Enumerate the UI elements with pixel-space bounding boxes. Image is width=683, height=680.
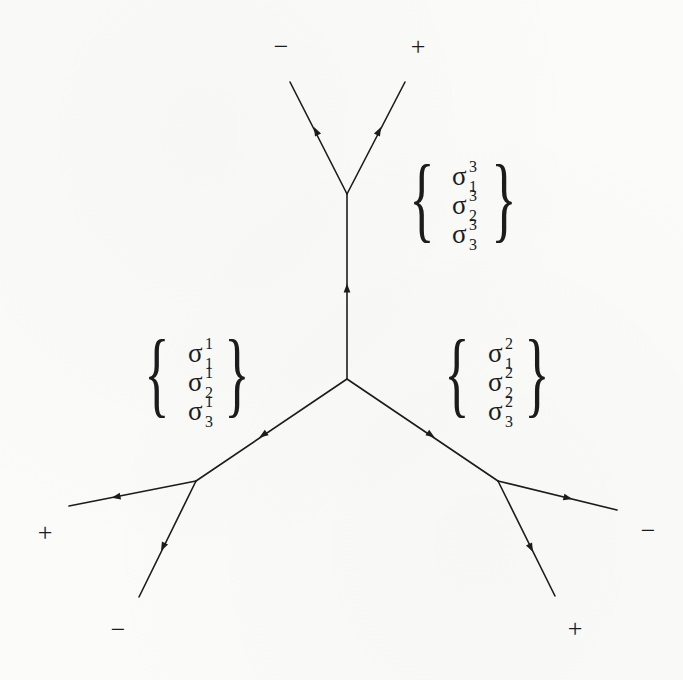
- superscript: 3: [469, 187, 477, 204]
- close-brace: }: [224, 320, 249, 427]
- sign-right-lower: +: [568, 614, 583, 643]
- figure-page: −++−−+ {}σ31σ32σ33{}σ11σ12σ13{}σ21σ22σ23: [0, 0, 683, 680]
- sigma-symbol: σ: [488, 396, 503, 426]
- superscript: 2: [505, 364, 513, 381]
- subscript: 3: [205, 413, 213, 430]
- sigma-term: σ13: [188, 393, 213, 430]
- superscript: 2: [505, 393, 513, 410]
- edge-right-outer-branch: [498, 481, 617, 510]
- superscript: 1: [205, 393, 213, 410]
- sigma-symbol: σ: [488, 338, 503, 368]
- arrow-up-right-icon: [374, 127, 381, 137]
- open-brace: {: [144, 320, 169, 427]
- sign-left-outer: +: [38, 518, 53, 547]
- sign-top-right: +: [411, 32, 426, 61]
- close-brace: }: [491, 145, 516, 252]
- sigma-symbol: σ: [488, 367, 503, 397]
- label-group-top-group: {}σ31σ32σ33: [409, 145, 516, 253]
- edge-left-lower-branch: [139, 481, 196, 597]
- close-brace: }: [524, 320, 549, 427]
- superscript: 2: [505, 335, 513, 352]
- edge-diag-right: [347, 379, 498, 481]
- superscript: 1: [205, 364, 213, 381]
- sigma-symbol: σ: [188, 367, 203, 397]
- superscript: 3: [469, 158, 477, 175]
- arrow-down-icon: [161, 541, 168, 551]
- arrow-down-icon: [526, 542, 533, 552]
- sigma-term: σ33: [452, 216, 477, 253]
- sign-right-outer: −: [641, 516, 656, 545]
- sigma-symbol: σ: [452, 190, 467, 220]
- superscript: 3: [469, 216, 477, 233]
- edge-right-lower-branch: [498, 481, 555, 596]
- arrow-down-left-icon: [259, 430, 268, 438]
- sign-top-left: −: [274, 32, 289, 61]
- sigma-symbol: σ: [188, 338, 203, 368]
- superscript: 1: [205, 335, 213, 352]
- tree-diagram: −++−−+ {}σ31σ32σ33{}σ11σ12σ13{}σ21σ22σ23: [0, 0, 683, 680]
- sigma-symbol: σ: [452, 161, 467, 191]
- arrow-left-icon: [112, 493, 121, 500]
- subscript: 3: [469, 236, 477, 253]
- subscript: 3: [505, 413, 513, 430]
- sigma-term: σ23: [488, 393, 513, 430]
- label-group-right-group: {}σ21σ22σ23: [444, 320, 549, 430]
- arrow-down-right-icon: [425, 430, 434, 438]
- open-brace: {: [444, 320, 469, 427]
- edge-top-left-branch: [290, 82, 347, 194]
- sigma-symbol: σ: [188, 396, 203, 426]
- edge-left-outer-branch: [69, 481, 196, 506]
- sigma-symbol: σ: [452, 219, 467, 249]
- sign-left-lower: −: [111, 615, 126, 644]
- open-brace: {: [409, 145, 434, 252]
- arrow-up-icon: [344, 284, 351, 293]
- edge-diag-left: [196, 379, 347, 481]
- label-group-left-group: {}σ11σ12σ13: [144, 320, 249, 430]
- arrow-up-left-icon: [314, 127, 321, 137]
- edge-top-right-branch: [347, 82, 405, 194]
